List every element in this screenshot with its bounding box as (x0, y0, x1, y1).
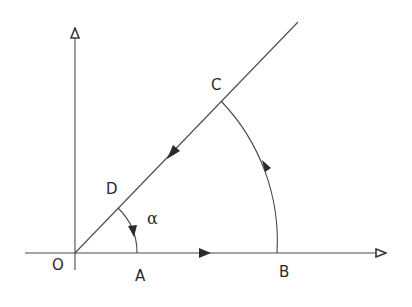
arrow-d-to-a-icon (128, 225, 137, 237)
label-a: A (135, 267, 146, 285)
label-d: D (106, 180, 118, 198)
label-o: O (52, 256, 64, 274)
label-b: B (279, 263, 289, 281)
label-c: C (211, 76, 221, 94)
arrow-c-to-d-icon (167, 145, 180, 159)
arc-b-c (221, 101, 277, 253)
ray-line (75, 22, 298, 253)
arrow-o-to-b-icon (199, 248, 211, 258)
diagram-canvas: O A B C D α (0, 0, 412, 307)
label-alpha: α (147, 209, 158, 228)
